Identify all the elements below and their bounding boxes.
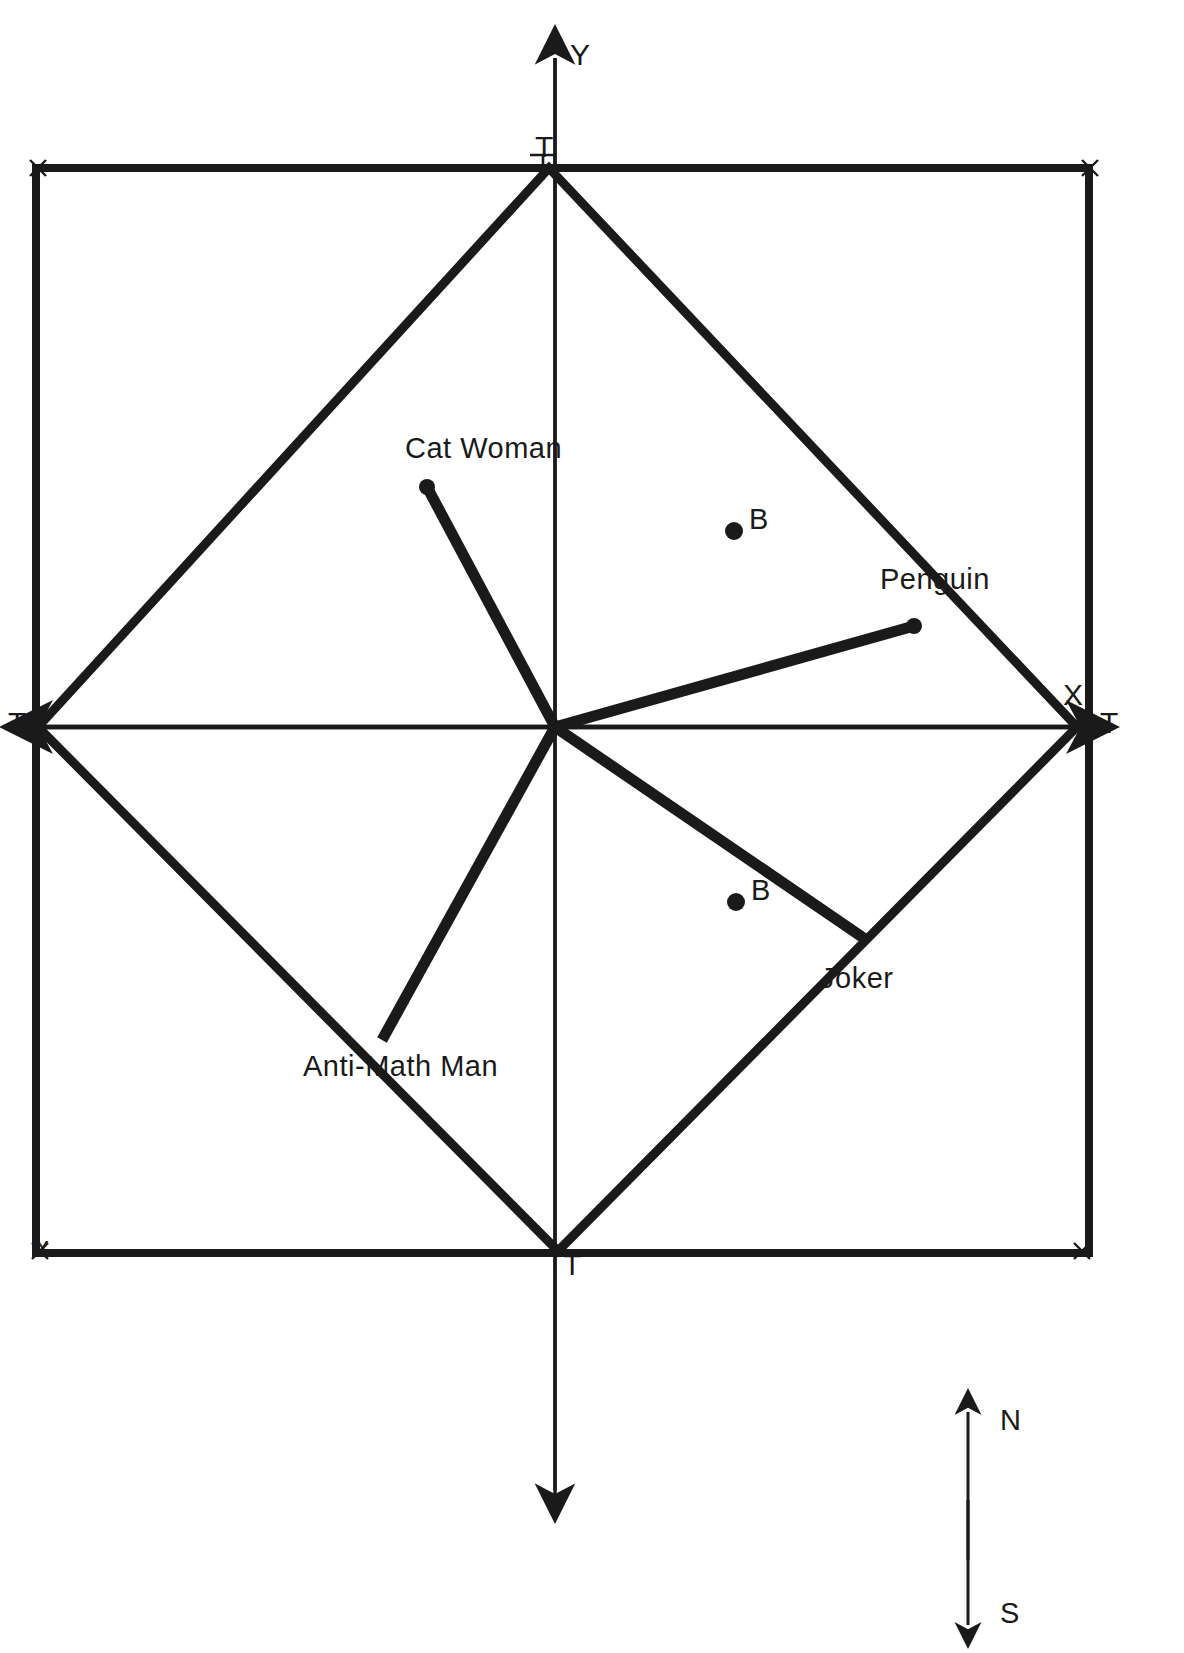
ray-cat-woman <box>427 487 555 727</box>
graph-paper-page: Cat Woman Penguin Joker Anti-Math Man B … <box>0 0 1184 1653</box>
label-penguin: Penguin <box>880 563 990 596</box>
corner-x-marks <box>30 160 1098 1259</box>
dot-cat-woman-endpoint <box>419 479 435 495</box>
bounding-square <box>36 168 1089 1253</box>
label-compass-north: N <box>1000 1404 1021 1437</box>
dot-b-lower <box>727 893 745 911</box>
label-x-axis: X <box>1063 678 1083 712</box>
label-joker: Joker <box>820 962 893 995</box>
label-t-right: T <box>1100 706 1118 740</box>
label-t-left: T <box>8 706 26 740</box>
ray-anti-math-man <box>382 727 555 1040</box>
ray-joker <box>555 727 868 941</box>
label-anti-math-man: Anti-Math Man <box>303 1050 498 1083</box>
ray-penguin <box>555 626 914 727</box>
label-cat-woman: Cat Woman <box>405 432 562 465</box>
dot-b-upper <box>725 522 743 540</box>
diamond-shape <box>38 168 1077 1251</box>
label-t-bottom: T <box>563 1248 581 1282</box>
dot-penguin-endpoint <box>906 618 922 634</box>
label-point-b-upper: B <box>749 503 768 536</box>
label-y-axis: Y <box>570 38 590 72</box>
label-t-top: T <box>535 130 553 164</box>
label-compass-south: S <box>1000 1597 1019 1630</box>
label-point-b-lower: B <box>751 874 770 907</box>
label-corner-bottom-left: x <box>36 1231 49 1262</box>
